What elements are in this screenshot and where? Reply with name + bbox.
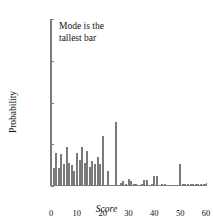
- histogram-bar: [107, 171, 109, 186]
- histogram-figure: Probability 0102030405060 00.050.10.150.…: [0, 0, 213, 224]
- x-tick-mark: [77, 183, 78, 186]
- y-tick-mark: [51, 19, 54, 20]
- y-tick-mark: [51, 186, 54, 187]
- x-tick-mark: [103, 183, 104, 186]
- histogram-bar: [156, 176, 158, 186]
- x-tick-mark: [206, 183, 207, 186]
- x-axis-label: Score: [0, 205, 213, 215]
- x-tick-mark: [154, 183, 155, 186]
- mode-annotation: Mode is the tallest bar: [59, 21, 104, 44]
- y-tick-mark: [51, 103, 54, 104]
- x-tick-mark: [180, 183, 181, 186]
- y-tick-mark: [51, 61, 54, 62]
- histogram-bar: [115, 122, 117, 186]
- histogram-bar: [102, 136, 104, 186]
- histogram-bar: [164, 184, 166, 186]
- y-tick-mark: [51, 144, 54, 145]
- histogram-bar: [146, 180, 148, 186]
- histogram-bar: [135, 184, 137, 186]
- y-axis-label: Probability: [6, 0, 20, 224]
- y-axis-label-text: Probability: [8, 91, 18, 133]
- x-tick-mark: [129, 183, 130, 186]
